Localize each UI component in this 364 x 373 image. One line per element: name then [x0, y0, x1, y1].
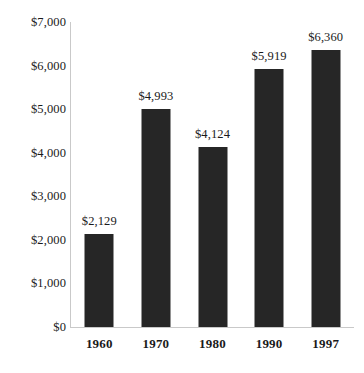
x-axis-tick-labels: 19601970198019901997	[71, 0, 354, 373]
x-axis-category-label: 1980	[186, 336, 240, 352]
y-axis-tick-label: $3,000	[4, 189, 66, 204]
y-axis-tick-label: $7,000	[4, 15, 66, 30]
x-axis-category-label: 1960	[72, 336, 126, 352]
y-axis-tick-label: $1,000	[4, 276, 66, 291]
y-axis-tick-label: $4,000	[4, 145, 66, 160]
y-axis-tick-label: $0	[4, 320, 66, 335]
y-axis-tick-label: $6,000	[4, 58, 66, 73]
bar-chart: $0$1,000$2,000$3,000$4,000$5,000$6,000$7…	[0, 0, 364, 373]
y-axis-tick-label: $2,000	[4, 232, 66, 247]
y-axis-tick-label: $5,000	[4, 102, 66, 117]
y-axis-tick-labels: $0$1,000$2,000$3,000$4,000$5,000$6,000$7…	[0, 0, 66, 373]
x-axis-category-label: 1970	[129, 336, 183, 352]
x-axis-category-label: 1997	[299, 336, 353, 352]
x-axis-category-label: 1990	[242, 336, 296, 352]
